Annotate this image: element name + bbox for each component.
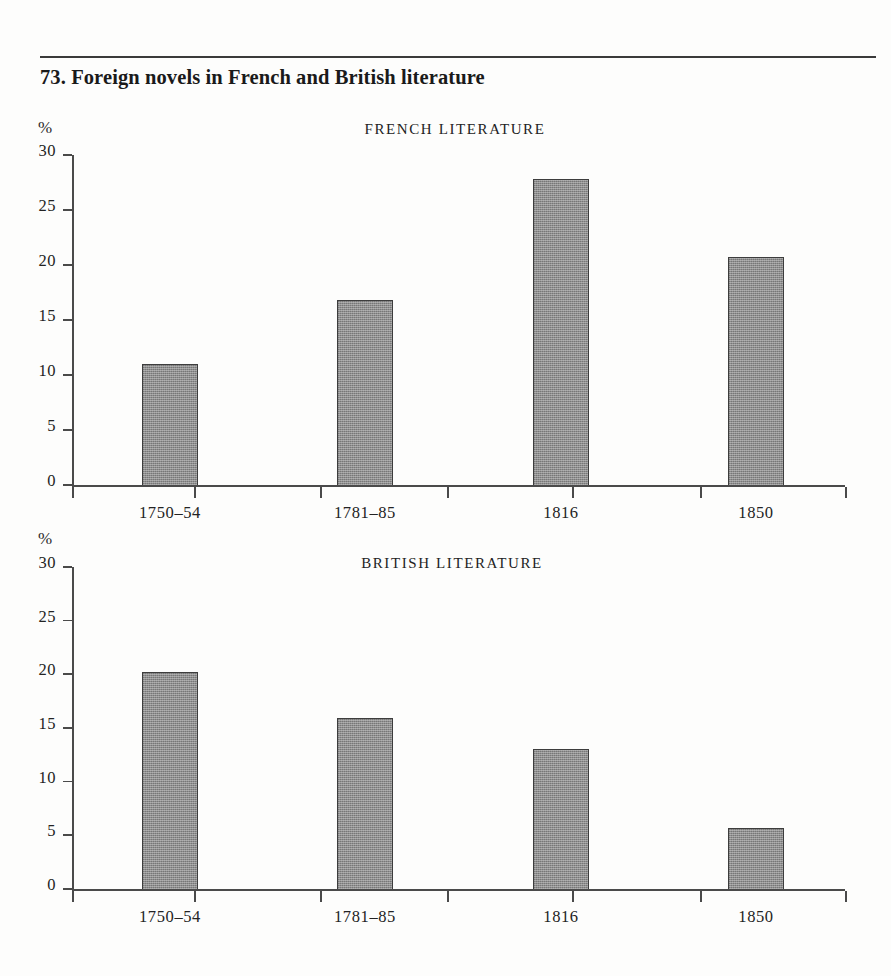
y-tick-label-british-0: 0 bbox=[47, 877, 56, 894]
x-axis-label-french-2: 1816 bbox=[543, 503, 578, 523]
x-axis-label-british-0: 1750–54 bbox=[139, 907, 201, 927]
y-tick-french-20: 20 bbox=[63, 264, 72, 266]
x-tick-british-1 bbox=[194, 891, 196, 902]
y-tick-label-french-20: 20 bbox=[39, 253, 57, 270]
x-tick-british-3 bbox=[447, 891, 449, 902]
x-tick-french-4 bbox=[572, 487, 574, 498]
bar-french-1750-54 bbox=[142, 364, 198, 486]
y-tick-label-british-10: 10 bbox=[39, 770, 57, 787]
panel-heading-british: BRITISH LITERATURE bbox=[361, 555, 543, 572]
y-tick-french-30: 30 bbox=[63, 154, 72, 156]
header-rule bbox=[40, 56, 876, 58]
bar-french-1816 bbox=[533, 179, 589, 486]
figure-title: 73. Foreign novels in French and British… bbox=[40, 66, 485, 89]
x-tick-british-6 bbox=[845, 891, 847, 902]
y-axis-line-french bbox=[72, 155, 74, 487]
chart-panel-french: % FRENCH LITERATURE 0510152025301750–541… bbox=[0, 110, 891, 530]
y-tick-label-french-0: 0 bbox=[47, 473, 56, 490]
x-tick-british-0 bbox=[72, 891, 74, 902]
y-tick-label-british-5: 5 bbox=[47, 823, 56, 840]
bar-french-1781-85 bbox=[337, 300, 393, 486]
y-tick-label-french-25: 25 bbox=[39, 198, 57, 215]
x-tick-british-4 bbox=[572, 891, 574, 902]
y-tick-british-5: 5 bbox=[63, 834, 72, 836]
x-tick-french-0 bbox=[72, 487, 74, 498]
y-axis-line-british bbox=[72, 567, 74, 891]
x-tick-french-5 bbox=[700, 487, 702, 498]
y-tick-british-0: 0 bbox=[63, 888, 72, 890]
y-unit-label-french: % bbox=[38, 118, 52, 138]
bar-british-1850 bbox=[728, 828, 784, 890]
y-tick-british-25: 25 bbox=[63, 620, 72, 622]
x-tick-french-2 bbox=[320, 487, 322, 498]
y-tick-label-british-20: 20 bbox=[39, 662, 57, 679]
x-axis-label-british-1: 1781–85 bbox=[334, 907, 396, 927]
chart-panel-british: % BRITISH LITERATURE 0510152025301750–54… bbox=[0, 524, 891, 944]
bar-british-1816 bbox=[533, 749, 589, 890]
y-tick-french-15: 15 bbox=[63, 319, 72, 321]
bar-british-1750-54 bbox=[142, 672, 198, 890]
bar-french-1850 bbox=[728, 257, 784, 486]
y-tick-french-5: 5 bbox=[63, 429, 72, 431]
x-axis-label-british-3: 1850 bbox=[738, 907, 773, 927]
y-tick-label-british-30: 30 bbox=[39, 555, 57, 572]
y-unit-label-british: % bbox=[38, 529, 52, 549]
x-tick-british-2 bbox=[320, 891, 322, 902]
y-tick-label-french-15: 15 bbox=[39, 308, 57, 325]
x-tick-french-1 bbox=[194, 487, 196, 498]
y-tick-french-25: 25 bbox=[63, 209, 72, 211]
y-tick-label-british-25: 25 bbox=[39, 609, 57, 626]
x-axis-line-french bbox=[72, 485, 845, 487]
x-axis-label-french-3: 1850 bbox=[738, 503, 773, 523]
panel-heading-french: FRENCH LITERATURE bbox=[365, 121, 546, 138]
y-tick-french-10: 10 bbox=[63, 374, 72, 376]
x-axis-label-british-2: 1816 bbox=[543, 907, 578, 927]
figure-page: 73. Foreign novels in French and British… bbox=[0, 0, 891, 976]
y-tick-british-15: 15 bbox=[63, 727, 72, 729]
y-tick-british-20: 20 bbox=[63, 673, 72, 675]
y-tick-label-british-15: 15 bbox=[39, 716, 57, 733]
y-tick-british-30: 30 bbox=[63, 566, 72, 568]
bar-british-1781-85 bbox=[337, 718, 393, 890]
y-tick-french-0: 0 bbox=[63, 484, 72, 486]
x-tick-british-5 bbox=[700, 891, 702, 902]
x-tick-french-3 bbox=[447, 487, 449, 498]
y-tick-label-french-30: 30 bbox=[39, 143, 57, 160]
x-tick-french-6 bbox=[845, 487, 847, 498]
x-axis-label-french-0: 1750–54 bbox=[139, 503, 201, 523]
y-tick-label-french-10: 10 bbox=[39, 363, 57, 380]
y-tick-british-10: 10 bbox=[63, 781, 72, 783]
x-axis-label-french-1: 1781–85 bbox=[334, 503, 396, 523]
x-axis-line-british bbox=[72, 889, 845, 891]
y-tick-label-french-5: 5 bbox=[47, 418, 56, 435]
